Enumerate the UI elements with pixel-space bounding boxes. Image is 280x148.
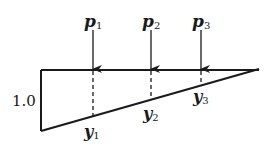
influence-line-diagram: p1 p2 p3 y1 y2 y3 1.0 (0, 0, 280, 148)
ordinate-label-y3: y3 (192, 87, 209, 106)
load-label-p3: p3 (192, 11, 210, 31)
load-label-p1: p1 (84, 11, 102, 31)
ordinate-label-y2: y2 (142, 104, 159, 123)
ordinate-label-y1: y1 (83, 122, 100, 141)
load-arrows (93, 30, 201, 69)
load-label-p2: p2 (142, 11, 160, 31)
unit-ordinate-label: 1.0 (12, 92, 36, 110)
